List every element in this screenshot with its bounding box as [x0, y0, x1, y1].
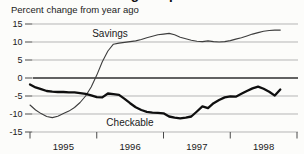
y-tick-label: -5 — [14, 91, 22, 101]
savings-line — [30, 30, 280, 118]
y-tick-label: -15 — [9, 127, 22, 137]
series-label-savings: Savings — [92, 28, 128, 39]
year-label: 1996 — [120, 141, 141, 152]
checkable-line — [30, 85, 280, 119]
y-tick-label: 15 — [12, 19, 22, 29]
year-label: 1997 — [186, 141, 207, 152]
chart-canvas: 151050-5-10-151995199619971998SavingsChe… — [0, 0, 304, 154]
series-label-checkable: Checkable — [106, 117, 154, 128]
y-tick-label: -10 — [9, 109, 22, 119]
chart-root: Savings Deposits Percent change from yea… — [0, 0, 304, 154]
year-label: 1995 — [53, 141, 74, 152]
year-label: 1998 — [253, 141, 274, 152]
y-tick-label: 0 — [17, 73, 22, 83]
y-tick-label: 5 — [17, 55, 22, 65]
y-tick-label: 10 — [12, 37, 22, 47]
